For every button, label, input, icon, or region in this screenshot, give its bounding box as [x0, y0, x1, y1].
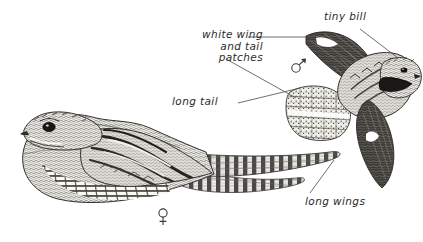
annotation-white-wing-line1: white wing — [202, 28, 263, 40]
flying-bird-head — [379, 57, 422, 98]
flying-bird-eye — [401, 67, 408, 72]
female-symbol-mark — [159, 209, 167, 225]
annotation-white-wing-patches: white wingand tailpatches — [167, 29, 263, 64]
leader-line-patches — [226, 59, 296, 98]
annotation-long-wings: long wings — [305, 196, 365, 208]
annotation-tiny-bill: tiny bill — [324, 11, 366, 23]
annotation-white-wing-line2: and tail — [220, 40, 263, 52]
male-symbol-mark — [292, 58, 306, 72]
annotation-long-tail: long tail — [172, 96, 218, 108]
annotation-white-wing-line3: patches — [219, 51, 263, 63]
